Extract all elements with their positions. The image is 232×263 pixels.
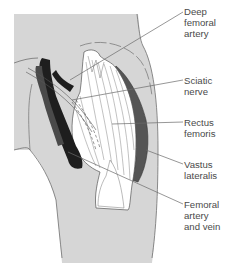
label-deep-femoral-artery: Deep femoral artery <box>184 6 216 39</box>
label-rectus-femoris: Rectus femoris <box>184 117 215 139</box>
label-vastus-lateralis: Vastus lateralis <box>184 159 217 181</box>
label-femoral-artery-and-vein: Femoral artery and vein <box>184 199 220 232</box>
label-sciatic-nerve: Sciatic nerve <box>184 75 212 97</box>
thigh-anatomy-diagram: Deep femoral artery Sciatic nerve Rectus… <box>0 0 232 263</box>
